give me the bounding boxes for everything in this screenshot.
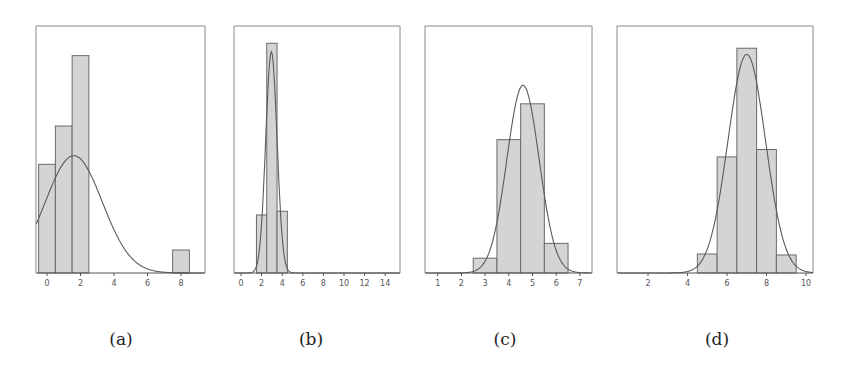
histogram-bar [737, 48, 757, 273]
caption-d: (d) [705, 329, 729, 349]
x-tick-label: 2 [645, 279, 650, 288]
caption-a: (a) [109, 329, 132, 349]
x-tick-label: 10 [801, 279, 811, 288]
histogram-bar [757, 150, 777, 274]
caption-b: (b) [299, 329, 323, 349]
x-tick-label: 6 [724, 279, 729, 288]
x-tick-label: 4 [685, 279, 690, 288]
caption-c: (c) [494, 329, 517, 349]
histogram-bar [776, 255, 796, 273]
normal-fit-curve [618, 55, 813, 274]
histogram-bar [717, 157, 737, 273]
histogram-d: 246810 [0, 0, 844, 300]
plot-frame [617, 26, 813, 273]
x-tick-label: 8 [764, 279, 769, 288]
